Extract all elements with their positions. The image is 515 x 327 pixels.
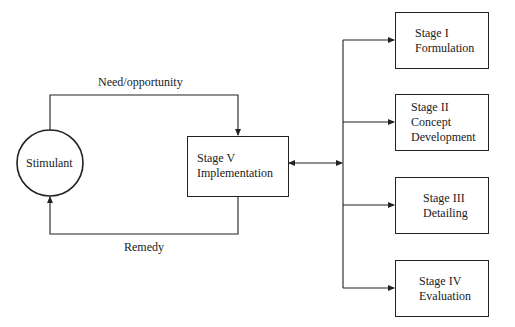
stage3-line1: Stage III — [423, 191, 465, 206]
stage1-line2: Formulation — [415, 41, 474, 56]
stage1-box: Stage I Formulation — [395, 12, 489, 69]
stage2-line3: Development — [411, 130, 476, 145]
edge-remedy — [50, 197, 238, 234]
stage4-box: Stage IV Evaluation — [395, 260, 489, 317]
stage4-line1: Stage IV — [419, 274, 461, 289]
stage2-line1: Stage II — [411, 100, 449, 115]
stage4-line2: Evaluation — [419, 289, 471, 304]
need-opportunity-label: Need/opportunity — [98, 75, 183, 90]
edge-need-opportunity — [50, 95, 238, 135]
stage5-line2: Implementation — [197, 166, 273, 181]
remedy-label: Remedy — [124, 240, 164, 255]
stage2-box: Stage II Concept Development — [395, 94, 489, 151]
stage5-line1: Stage V — [197, 151, 235, 166]
stage3-box: Stage III Detailing — [395, 177, 489, 234]
stage3-line2: Detailing — [423, 206, 468, 221]
stage1-line1: Stage I — [415, 26, 449, 41]
stage5-box: Stage V Implementation — [187, 136, 289, 197]
stimulant-label: Stimulant — [26, 156, 73, 171]
stage2-line2: Concept — [411, 115, 451, 130]
